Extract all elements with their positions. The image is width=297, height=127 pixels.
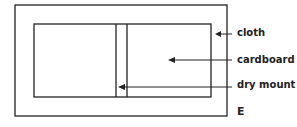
figure-letter: E xyxy=(237,106,245,118)
label-cloth: cloth xyxy=(237,27,265,39)
cardboard-arrow-icon xyxy=(168,57,175,63)
dry-mount-arrow-icon xyxy=(118,84,125,90)
label-cardboard: cardboard xyxy=(237,54,295,66)
cloth-arrow-icon xyxy=(215,31,221,37)
label-dry-mount: dry mount xyxy=(237,79,295,91)
